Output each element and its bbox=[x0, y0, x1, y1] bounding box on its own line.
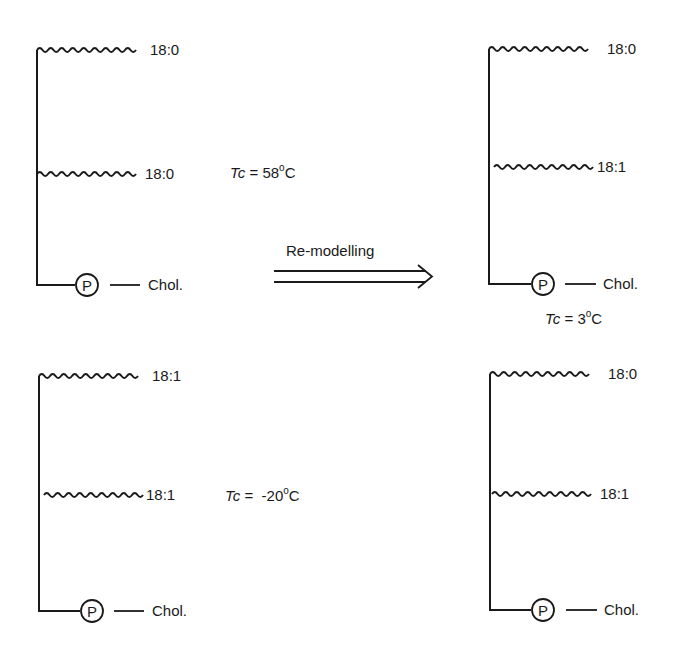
chain-label: 18:0 bbox=[607, 41, 636, 56]
tc-unit: C bbox=[289, 487, 300, 504]
phosphate-symbol: P bbox=[87, 603, 97, 620]
fatty-acid-chain-2 bbox=[37, 172, 136, 176]
tc-equals: = bbox=[564, 310, 573, 327]
headgroup-label: Chol. bbox=[603, 276, 638, 291]
chain-label: 18:1 bbox=[597, 159, 626, 174]
chain-label: 18:0 bbox=[150, 42, 179, 57]
tc-unit: C bbox=[285, 164, 296, 181]
fatty-acid-chain-1 bbox=[39, 374, 138, 378]
fatty-acid-chain-2 bbox=[494, 165, 593, 169]
tc-symbol: Tc bbox=[225, 487, 240, 504]
fatty-acid-chain-1 bbox=[37, 48, 136, 52]
degree-symbol: o bbox=[283, 485, 289, 496]
phosphate-symbol: P bbox=[538, 602, 548, 619]
tc-unit: C bbox=[591, 310, 602, 327]
phosphate-symbol: P bbox=[538, 276, 548, 293]
arrow-head-icon bbox=[418, 265, 432, 288]
phosphate-symbol: P bbox=[82, 277, 92, 294]
remodelling-label: Re-modelling bbox=[286, 243, 374, 258]
fatty-acid-chain-2 bbox=[492, 492, 591, 496]
chain-label: 18:1 bbox=[146, 487, 175, 502]
tc-equals: = bbox=[249, 164, 258, 181]
chain-label: 18:1 bbox=[152, 368, 181, 383]
degree-symbol: o bbox=[279, 162, 285, 173]
transition-temp-bottom-left: Tc = -20oC bbox=[225, 488, 300, 503]
molecule-top-left: P bbox=[36, 48, 140, 296]
headgroup-label: Chol. bbox=[152, 603, 187, 618]
molecule-bottom-left: P bbox=[38, 374, 144, 622]
tc-equals: = bbox=[244, 487, 253, 504]
molecule-top-right: P bbox=[488, 47, 596, 295]
headgroup-label: Chol. bbox=[148, 277, 183, 292]
tc-value: -20 bbox=[262, 487, 284, 504]
chain-label: 18:0 bbox=[608, 366, 637, 381]
chain-label: 18:1 bbox=[600, 486, 629, 501]
tc-value: 3 bbox=[577, 310, 585, 327]
tc-symbol: Tc bbox=[230, 164, 245, 181]
degree-symbol: o bbox=[586, 308, 592, 319]
transition-temp-top-left: Tc = 58oC bbox=[230, 165, 296, 180]
tc-symbol: Tc bbox=[545, 310, 560, 327]
fatty-acid-chain-2 bbox=[44, 493, 143, 497]
remodelling-arrow bbox=[274, 265, 432, 288]
molecule-bottom-right: P bbox=[489, 372, 597, 621]
chain-label: 18:0 bbox=[145, 166, 174, 181]
headgroup-label: Chol. bbox=[604, 602, 639, 617]
transition-temp-top-right: Tc = 3oC bbox=[545, 311, 602, 326]
diagram-canvas: P P P P bbox=[0, 0, 695, 662]
tc-value: 58 bbox=[262, 164, 279, 181]
fatty-acid-chain-1 bbox=[489, 47, 588, 51]
fatty-acid-chain-1 bbox=[490, 372, 589, 376]
